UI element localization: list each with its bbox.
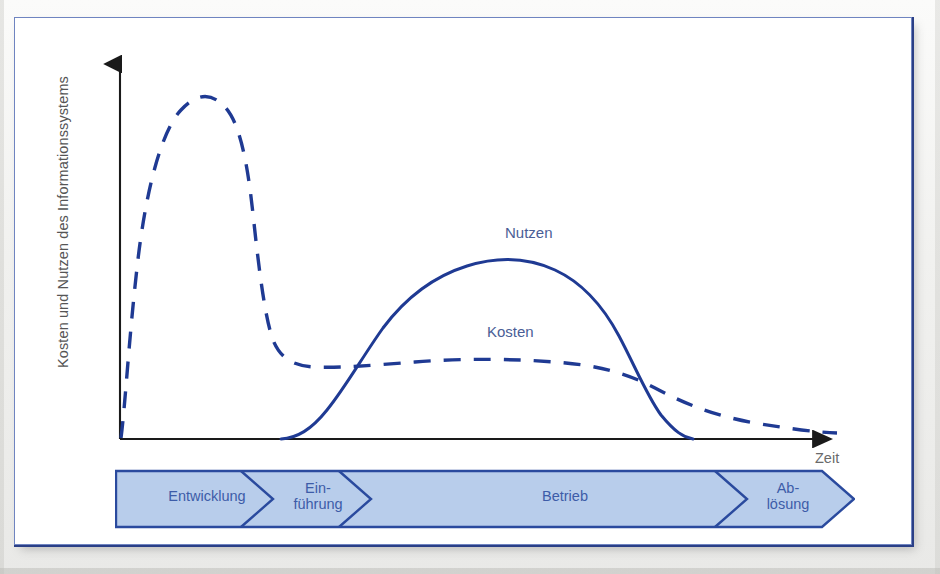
nutzen-curve-label: Nutzen — [505, 224, 553, 241]
kosten-curve-label: Kosten — [487, 323, 534, 340]
lifecycle-phase-band: Entwicklung Ein- führung Betrieb Ab- lös… — [115, 468, 855, 530]
figure-frame: Kosten und Nutzen des Informationssystem… — [14, 17, 912, 545]
y-axis-label: Kosten und Nutzen des Informationssystem… — [55, 72, 71, 372]
phase-band-shape — [115, 468, 855, 530]
cost-benefit-chart — [15, 18, 913, 546]
kosten-curve — [121, 96, 837, 438]
figure-page: Kosten und Nutzen des Informationssystem… — [0, 0, 940, 574]
phase-band-outline — [116, 471, 854, 527]
x-axis-label: Zeit — [815, 450, 839, 466]
nutzen-curve — [281, 260, 693, 439]
